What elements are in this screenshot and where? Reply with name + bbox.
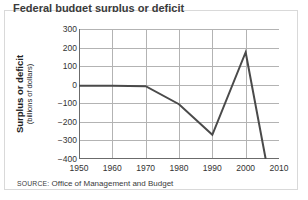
data-line-surplus-deficit [79, 52, 266, 159]
y-tick-label: 200 [35, 43, 77, 52]
line-chart-svg [79, 29, 279, 159]
source-label: SOURCE: [17, 180, 49, 187]
y-tick-label: 0 [35, 80, 77, 89]
y-tick-label: −200 [35, 117, 77, 126]
y-tick-label: 100 [35, 62, 77, 71]
y-axis-tick-labels: 3002001000−100−200−300−400 [33, 29, 77, 159]
y-tick-label: −300 [35, 136, 77, 145]
y-tick-label: −100 [35, 99, 77, 108]
y-axis-title: Surplus or deficit (billions of dollars) [13, 29, 35, 159]
clipped-chart-title: Federal budget surplus or deficit [13, 2, 253, 12]
plot-area [79, 29, 279, 159]
chart-figure: Federal budget surplus or deficit Surplu… [4, 10, 298, 190]
x-tick-label: 2010 [259, 163, 299, 173]
source-text: Office of Management and Budget [52, 179, 174, 188]
y-tick-label: 300 [35, 25, 77, 34]
gridlines [79, 29, 279, 159]
x-axis-tick-labels: 1950196019701980199020002010 [79, 163, 279, 175]
source-note: SOURCE: Office of Management and Budget [17, 179, 173, 189]
y-axis-title-main: Surplus or deficit [15, 29, 25, 159]
